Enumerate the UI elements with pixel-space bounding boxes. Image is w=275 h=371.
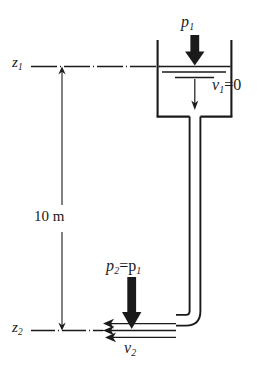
label-v2: v2: [124, 340, 136, 358]
diagram-canvas: [0, 0, 275, 371]
water-surface-lines: [159, 67, 231, 78]
label-v1-equals-zero: v1=0: [212, 77, 241, 95]
pressure-arrow-p2-icon: [122, 277, 141, 329]
tank-flow-arrow: [191, 79, 198, 110]
label-z1: z1: [12, 55, 23, 72]
jet-arrows: [103, 319, 176, 342]
dimension-line-10m: [58, 67, 65, 331]
pressure-arrow-p1-icon: [185, 35, 204, 66]
discharge-pipe: [176, 117, 200, 326]
label-z2: z2: [12, 320, 23, 337]
label-p1: p1: [181, 14, 194, 32]
label-height-10m: 10 m: [34, 209, 64, 224]
label-p2-equals-p1: p2=p1: [106, 258, 141, 276]
figure-container: z1 z2 p1 v1=0 p2=p1 v2 10 m: [0, 0, 275, 371]
